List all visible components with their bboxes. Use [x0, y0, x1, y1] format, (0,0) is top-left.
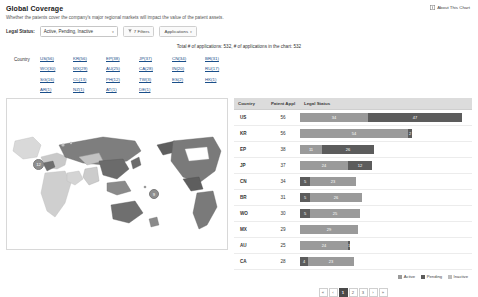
legend-label: Active [404, 274, 415, 279]
country-link[interactable]: EP(38) [106, 56, 139, 61]
cell-legal-status-bar: 525 [300, 206, 472, 222]
country-link[interactable]: CN(34) [172, 56, 205, 61]
table-row[interactable]: CA28423 [234, 254, 472, 270]
applications-button[interactable]: Applications ▾ [159, 26, 197, 37]
bar-segment-pending[interactable]: 5 [300, 193, 310, 202]
country-link[interactable]: AR(1) [40, 87, 73, 92]
country-link[interactable]: AU(25) [106, 66, 139, 71]
page-button[interactable]: « [319, 288, 328, 297]
legend-item-inactive[interactable]: Inactive [448, 274, 468, 279]
map-cluster-marker[interactable]: 9 [149, 189, 159, 199]
cell-country: EP [234, 142, 266, 158]
about-this-chart-label: About This Chart [437, 5, 470, 10]
country-link[interactable]: SG(16) [40, 77, 73, 82]
table-row[interactable]: US563447 [234, 110, 472, 126]
bar-segment-pending[interactable]: 2 [408, 129, 412, 138]
bar-segment-active[interactable]: 23 [310, 177, 356, 186]
bar-segment-pending[interactable]: 5 [300, 209, 310, 218]
country-link[interactable]: DE(1) [139, 87, 172, 92]
table-header-row: Country Patent Appl Legal Status [234, 98, 472, 110]
country-link[interactable]: CA(28) [139, 66, 172, 71]
country-link[interactable]: WO(30) [40, 66, 73, 71]
country-link[interactable]: US(56) [40, 56, 73, 61]
bar-segment-pending[interactable]: 5 [300, 177, 310, 186]
cell-patent-appl: 28 [266, 254, 300, 270]
table-row[interactable]: BR31526 [234, 190, 472, 206]
legal-status-table: Country Patent Appl Legal Status US56344… [234, 98, 472, 270]
col-header-country[interactable]: Country [234, 98, 266, 110]
table-head: Country Patent Appl Legal Status [234, 98, 472, 110]
country-link[interactable]: JP(37) [139, 56, 172, 61]
applications-button-label: Applications [164, 29, 188, 34]
page-button[interactable]: 3 [359, 288, 368, 297]
table-row[interactable]: EP381126 [234, 142, 472, 158]
legend-item-pending[interactable]: Pending [421, 274, 442, 279]
page-button[interactable]: 2 [349, 288, 358, 297]
bar-segment-active[interactable]: 23 [308, 257, 354, 266]
table-row[interactable]: KR56542 [234, 126, 472, 142]
cell-legal-status-bar: 523 [300, 174, 472, 190]
bar-segment-active[interactable]: 24 [300, 241, 348, 250]
page-button[interactable]: › [369, 288, 378, 297]
legal-status-select[interactable]: Active, Pending, Inactive ▾ [40, 26, 118, 37]
country-link[interactable]: RU(17) [205, 66, 238, 71]
country-link[interactable]: HK(1) [205, 77, 238, 82]
bar-segment-pending[interactable]: 1 [348, 241, 350, 250]
table-row[interactable]: MX2929 [234, 222, 472, 238]
stacked-bar: 525 [300, 209, 468, 218]
bar-segment-active[interactable]: 26 [310, 193, 362, 202]
legend-label: Pending [427, 274, 442, 279]
map-cluster-label: 9 [153, 192, 155, 197]
cell-legal-status-bar: 542 [300, 126, 472, 142]
country-link[interactable]: KR(56) [73, 56, 106, 61]
country-link[interactable]: MX(29) [73, 66, 106, 71]
table-row[interactable]: JP372412 [234, 158, 472, 174]
bar-segment-active[interactable]: 34 [300, 113, 368, 122]
col-header-patent-appl[interactable]: Patent Appl [266, 98, 300, 110]
bar-segment-active[interactable]: 54 [300, 129, 408, 138]
country-link[interactable]: IN(20) [172, 66, 205, 71]
table-row[interactable]: WO30525 [234, 206, 472, 222]
stacked-bar: 526 [300, 193, 468, 202]
bar-segment-active[interactable]: 29 [300, 225, 358, 234]
funnel-icon [128, 29, 132, 34]
filters-button[interactable]: 7 Filters [123, 26, 155, 37]
world-map[interactable]: 12 9 [6, 98, 228, 250]
col-header-legal-status[interactable]: Legal Status [300, 98, 472, 110]
table-row[interactable]: AU25241 [234, 238, 472, 254]
country-link[interactable]: PH(12) [106, 77, 139, 82]
cell-legal-status-bar: 2412 [300, 158, 472, 174]
page-button[interactable]: ‹ [329, 288, 338, 297]
legal-status-table-panel: Country Patent Appl Legal Status US56344… [234, 98, 472, 297]
bar-segment-pending[interactable]: 26 [322, 145, 374, 154]
country-link[interactable]: BR(31) [205, 56, 238, 61]
cell-patent-appl: 29 [266, 222, 300, 238]
table-row[interactable]: CN34523 [234, 174, 472, 190]
country-link[interactable]: NZ(1) [73, 87, 106, 92]
cell-country: CN [234, 174, 266, 190]
stacked-bar: 29 [300, 225, 468, 234]
cell-legal-status-bar: 241 [300, 238, 472, 254]
country-link[interactable]: TW(3) [139, 77, 172, 82]
cell-country: MX [234, 222, 266, 238]
country-link[interactable]: CL(13) [73, 77, 106, 82]
cell-patent-appl: 34 [266, 174, 300, 190]
legend-label: Inactive [454, 274, 468, 279]
bar-segment-active[interactable]: 24 [300, 161, 348, 170]
bar-segment-active[interactable]: 11 [300, 145, 322, 154]
bar-segment-active[interactable]: 25 [310, 209, 360, 218]
header-text-block: Global Coverage Whether the patents cove… [6, 5, 224, 20]
pagination: «‹123›» [234, 288, 472, 297]
bar-segment-pending[interactable]: 47 [368, 113, 462, 122]
bar-segment-pending[interactable]: 4 [300, 257, 308, 266]
country-link[interactable]: AT(1) [106, 87, 139, 92]
country-link[interactable]: ES(2) [172, 77, 205, 82]
map-cluster-marker[interactable]: 12 [33, 159, 44, 170]
legend-item-active[interactable]: Active [398, 274, 415, 279]
cell-patent-appl: 56 [266, 126, 300, 142]
about-this-chart-link[interactable]: About This Chart [430, 5, 472, 10]
page-button-active[interactable]: 1 [339, 288, 348, 297]
chevron-down-icon: ▾ [190, 29, 192, 33]
bar-segment-pending[interactable]: 12 [348, 161, 372, 170]
page-button[interactable]: » [379, 288, 388, 297]
